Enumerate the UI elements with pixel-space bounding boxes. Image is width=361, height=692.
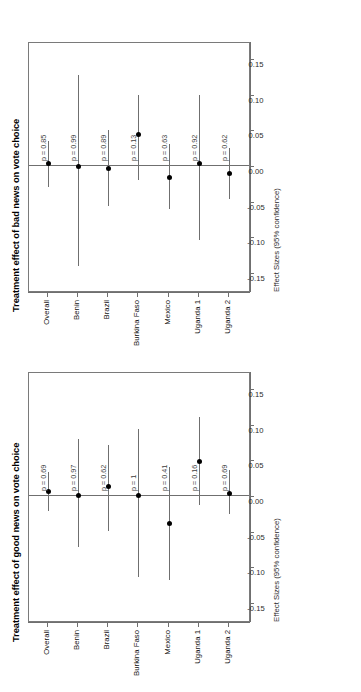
category-label: Benin bbox=[72, 630, 81, 650]
category-tick bbox=[107, 623, 108, 627]
figure-canvas: Treatment effect of bad news on vote cho… bbox=[0, 0, 361, 692]
confidence-interval-bar bbox=[78, 75, 79, 266]
value-tick-label: -0.15 bbox=[247, 274, 264, 283]
value-tick-label: 0.05 bbox=[249, 131, 264, 140]
p-value-label: p = 0.13 bbox=[129, 135, 138, 161]
category-label: Uganda 2 bbox=[223, 300, 232, 334]
p-value-label: p = 0.99 bbox=[69, 135, 78, 161]
value-axis: -0.15-0.10-0.050.000.050.100.15 bbox=[250, 42, 251, 292]
panel-bad-news: Treatment effect of bad news on vote cho… bbox=[10, 18, 300, 318]
p-value-label: p = 0.69 bbox=[220, 465, 229, 491]
point-estimate-marker bbox=[227, 171, 232, 176]
p-value-label: p = 1 bbox=[129, 475, 138, 491]
category-axis: OverallBeninBrazilBurkina FasoMexicoUgan… bbox=[28, 622, 250, 623]
p-value-label: p = 0.62 bbox=[99, 465, 108, 491]
confidence-interval-bar bbox=[138, 429, 139, 578]
category-tick bbox=[47, 293, 48, 297]
category-tick bbox=[198, 623, 199, 627]
panel-title: Treatment effect of good news on vote ch… bbox=[10, 443, 21, 642]
plot-area: p = 0.85p = 0.99p = 0.89p = 0.13p = 0.63… bbox=[28, 42, 250, 292]
category-label: Mexico bbox=[163, 630, 172, 655]
p-value-label: p = 0.63 bbox=[160, 135, 169, 161]
p-value-label: p = 0.92 bbox=[190, 135, 199, 161]
point-estimate-marker bbox=[136, 494, 141, 499]
value-tick-label: -0.15 bbox=[247, 604, 264, 613]
value-tick-label: 0.00 bbox=[249, 167, 264, 176]
category-tick bbox=[137, 293, 138, 297]
p-value-label: p = 0.41 bbox=[160, 465, 169, 491]
category-tick bbox=[107, 293, 108, 297]
category-tick bbox=[228, 623, 229, 627]
point-estimate-marker bbox=[167, 175, 172, 180]
category-label: Uganda 1 bbox=[193, 300, 202, 334]
category-axis: OverallBeninBrazilBurkina FasoMexicoUgan… bbox=[28, 292, 250, 293]
value-tick-label: 0.10 bbox=[249, 426, 264, 435]
point-estimate-marker bbox=[167, 521, 172, 526]
category-tick bbox=[77, 623, 78, 627]
value-tick-label: 0.00 bbox=[249, 497, 264, 506]
point-estimate-marker bbox=[76, 494, 81, 499]
point-estimate-marker bbox=[46, 161, 51, 166]
p-value-label: p = 0.85 bbox=[39, 135, 48, 161]
p-value-label: p = 0.16 bbox=[190, 465, 199, 491]
category-label: Mexico bbox=[163, 300, 172, 325]
value-tick-label: 0.15 bbox=[249, 60, 264, 69]
p-value-label: p = 0.62 bbox=[220, 135, 229, 161]
value-tick-label: 0.05 bbox=[249, 461, 264, 470]
category-label: Overall bbox=[42, 630, 51, 655]
category-label: Brazil bbox=[102, 300, 111, 320]
axis-title: Effect Sizes (95% confidence) bbox=[272, 372, 281, 622]
point-estimate-marker bbox=[227, 491, 232, 496]
category-label: Overall bbox=[42, 300, 51, 325]
category-tick bbox=[228, 293, 229, 297]
panel-title: Treatment effect of bad news on vote cho… bbox=[10, 119, 21, 312]
category-tick bbox=[168, 293, 169, 297]
category-tick bbox=[168, 623, 169, 627]
panel-good-news: Treatment effect of good news on vote ch… bbox=[10, 348, 300, 648]
category-label: Uganda 1 bbox=[193, 630, 202, 664]
category-tick bbox=[77, 293, 78, 297]
axis-title: Effect Sizes (95% confidence) bbox=[272, 42, 281, 292]
plot-area: p = 0.69p = 0.97p = 0.62p = 1p = 0.41p =… bbox=[28, 372, 250, 622]
category-tick bbox=[137, 623, 138, 627]
value-tick-label: -0.05 bbox=[247, 533, 264, 542]
category-label: Uganda 2 bbox=[223, 630, 232, 664]
category-label: Burkina Faso bbox=[132, 630, 141, 676]
p-value-label: p = 0.69 bbox=[39, 465, 48, 491]
confidence-interval-bar bbox=[138, 95, 139, 180]
point-estimate-marker bbox=[76, 164, 81, 169]
value-tick-label: 0.15 bbox=[249, 390, 264, 399]
value-tick-label: 0.10 bbox=[249, 96, 264, 105]
point-estimate-marker bbox=[106, 166, 111, 171]
category-tick bbox=[47, 623, 48, 627]
point-estimate-marker bbox=[197, 459, 202, 464]
category-label: Brazil bbox=[102, 630, 111, 650]
value-tick-label: -0.05 bbox=[247, 203, 264, 212]
category-label: Benin bbox=[72, 300, 81, 320]
p-value-label: p = 0.89 bbox=[99, 135, 108, 161]
value-axis: -0.15-0.10-0.050.000.050.100.15 bbox=[250, 372, 251, 622]
value-tick-label: -0.10 bbox=[247, 568, 264, 577]
value-tick-label: -0.10 bbox=[247, 238, 264, 247]
category-label: Burkina Faso bbox=[132, 300, 141, 346]
category-tick bbox=[198, 293, 199, 297]
p-value-label: p = 0.97 bbox=[69, 465, 78, 491]
confidence-interval-bar bbox=[199, 95, 200, 241]
